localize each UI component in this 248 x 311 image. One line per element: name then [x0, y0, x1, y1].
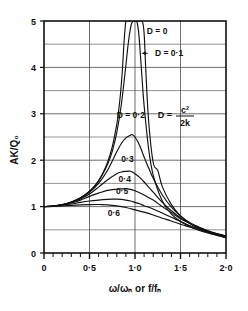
y-tick-label: 2	[31, 156, 36, 166]
x-tick-label: 1·0	[128, 263, 141, 273]
curve-label-1: D = 0·1	[155, 48, 183, 58]
y-tick-label: 3	[31, 109, 36, 119]
x-tick-label: 0·5	[83, 263, 96, 273]
x-tick-label: 2·0	[219, 263, 232, 273]
y-axis-title-text: AK/Q₀	[9, 135, 20, 165]
formula-denominator-text: 2k	[180, 118, 191, 128]
curve-label-0: D = 0	[147, 26, 168, 36]
curve-label-2: D = 0·2	[117, 110, 145, 120]
formula-numerator-text: c²	[181, 105, 189, 115]
curve-label-6: 0·6	[108, 208, 121, 218]
x-tick-label: 1·5	[174, 263, 187, 273]
chart-figure: 00·51·01·52·0 012345 D = 0D = 0·1D = 0·2…	[0, 0, 248, 311]
y-tick-label: 1	[31, 202, 36, 212]
formula-lhs-text: D =	[158, 110, 172, 120]
y-tick-label: 5	[31, 17, 36, 27]
x-tick-label: 0	[41, 263, 46, 273]
frequency-response-chart: 00·51·01·52·0 012345 D = 0D = 0·1D = 0·2…	[0, 0, 248, 311]
y-tick-label: 4	[31, 63, 36, 73]
y-axis-title: AK/Q₀	[9, 135, 20, 165]
curve-label-4: 0·4	[119, 174, 132, 184]
y-tick-label: 0	[31, 249, 36, 259]
curve-label-3: 0·3	[121, 154, 134, 164]
curve-label-5: 0·5	[116, 186, 129, 196]
x-axis-title: ω/ωₙ or f/fₙ	[109, 283, 162, 294]
x-axis-title-text: ω/ωₙ or f/fₙ	[109, 283, 162, 294]
